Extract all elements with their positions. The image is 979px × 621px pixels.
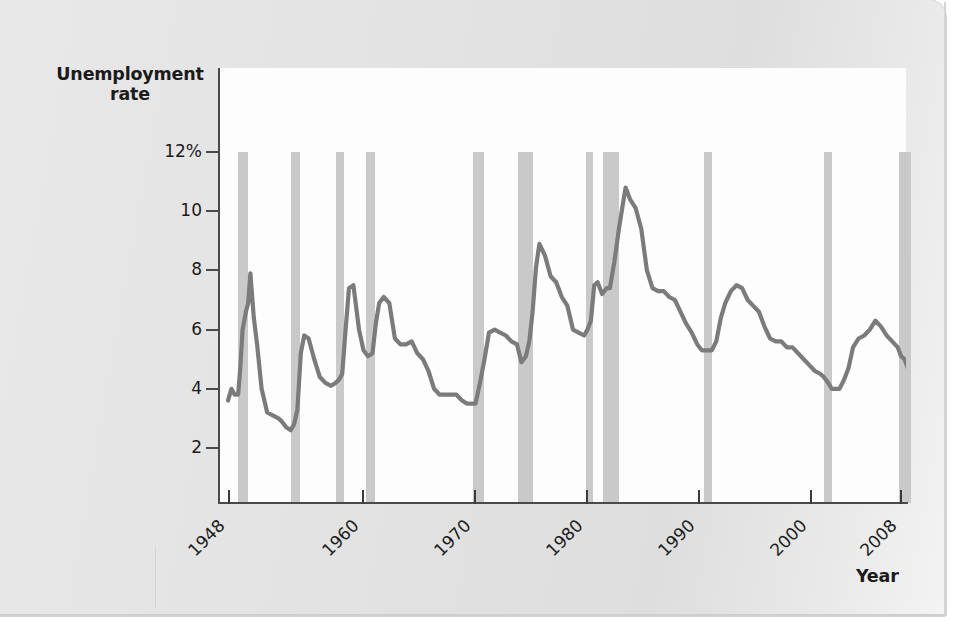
- x-axis-line: [218, 502, 908, 504]
- x-tick-label: 1970: [430, 515, 475, 560]
- figure-page: Unemployment rate Year 12%108642 1948196…: [0, 0, 979, 621]
- y-axis-tick-labels: 12%108642: [110, 0, 202, 520]
- x-tick-mark: [900, 490, 902, 504]
- y-tick-label: 2: [110, 437, 202, 457]
- y-tick-mark: [206, 210, 219, 212]
- x-tick-mark: [586, 490, 588, 504]
- x-tick-label: 2008: [856, 515, 901, 560]
- y-tick-label: 6: [110, 319, 202, 339]
- x-tick-label: 2000: [766, 515, 811, 560]
- x-tick-mark: [362, 490, 364, 504]
- x-tick-label: 1980: [542, 515, 587, 560]
- y-tick-label: 12%: [110, 141, 202, 161]
- x-tick-label: 1960: [318, 515, 363, 560]
- x-axis-tick-labels: 1948196019701980199020002008: [0, 516, 979, 586]
- x-tick-mark: [228, 490, 230, 504]
- x-tick-label: 1990: [654, 515, 699, 560]
- x-tick-mark: [698, 490, 700, 504]
- x-tick-label: 1948: [184, 515, 229, 560]
- x-tick-mark: [810, 490, 812, 504]
- y-tick-mark: [206, 447, 219, 449]
- y-tick-label: 10: [110, 200, 202, 220]
- y-tick-label: 8: [110, 259, 202, 279]
- x-tick-mark: [474, 490, 476, 504]
- y-tick-label: 4: [110, 378, 202, 398]
- unemployment-line-series: [218, 68, 906, 503]
- y-tick-mark: [206, 269, 219, 271]
- y-tick-mark: [206, 388, 219, 390]
- page-bottom-edge: [0, 614, 946, 616]
- plot-area: [218, 68, 906, 503]
- y-axis-line: [218, 68, 220, 504]
- y-tick-mark: [206, 151, 219, 153]
- y-tick-mark: [206, 329, 219, 331]
